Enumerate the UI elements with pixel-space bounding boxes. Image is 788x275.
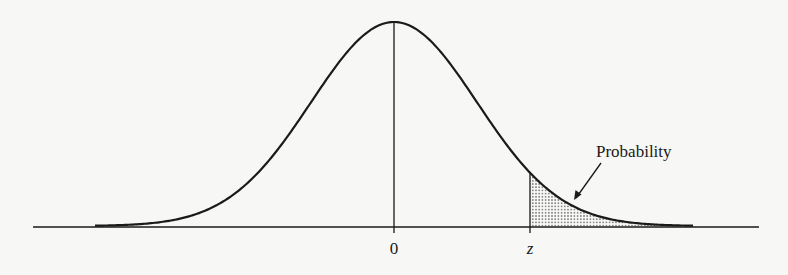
shaded-probability-region [530,173,693,226]
center-tick-label: 0 [390,239,399,258]
probability-label: Probability [596,142,672,161]
normal-distribution-diagram: 0 z Probability [0,0,788,275]
probability-arrow [576,163,601,198]
z-tick-label: z [526,239,534,258]
